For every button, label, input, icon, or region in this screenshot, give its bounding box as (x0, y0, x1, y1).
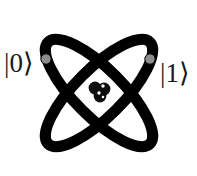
electron-right (145, 54, 155, 64)
nucleon-highlight-3 (102, 96, 105, 99)
nucleon-highlight-2 (97, 91, 100, 94)
nucleon-highlight-1 (101, 84, 104, 87)
atom-illustration (0, 0, 197, 176)
electron-left (41, 54, 51, 64)
atom-qubit-figure: |0⟩ |1⟩ (0, 0, 197, 176)
ket-one-label: |1⟩ (160, 60, 190, 87)
nucleon-3 (94, 90, 107, 103)
ket-zero-label: |0⟩ (4, 50, 34, 77)
